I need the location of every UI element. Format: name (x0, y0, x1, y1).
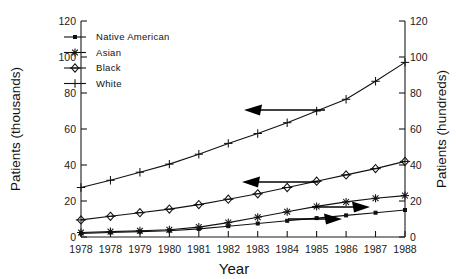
data-point (311, 177, 321, 185)
white-axis-arrow (244, 105, 325, 116)
data-point (372, 194, 380, 202)
y-axis-left-ticks: 0 20 40 60 80 100 120 (58, 15, 87, 243)
legend-label: Native American (96, 31, 170, 42)
data-point (136, 168, 144, 176)
y-axis-left-title: Patients (thousands) (8, 67, 23, 191)
data-point (371, 77, 379, 85)
data-point (165, 226, 173, 234)
x-tick-label-10: 1987 (364, 243, 388, 255)
legend-label: White (96, 78, 122, 89)
data-point (106, 176, 114, 184)
chart-figure: 0 20 40 60 80 100 120 0 20 40 60 80 100 … (0, 0, 456, 279)
data-point (224, 139, 232, 147)
data-point (254, 213, 262, 221)
x-tick-label-0: 1978 (69, 243, 93, 255)
y2-tick-label-20: 20 (410, 195, 422, 207)
data-point (374, 211, 377, 214)
x-tick-label-3: 1980 (158, 243, 182, 255)
y-tick-label-60: 60 (64, 123, 76, 135)
y2-tick-label-60: 60 (410, 123, 422, 135)
y-tick-label-20: 20 (64, 195, 76, 207)
data-point (253, 190, 263, 198)
y-tick-label-0: 0 (70, 231, 76, 243)
legend-marker-diamond-icon (70, 64, 80, 72)
data-point (401, 58, 409, 66)
data-point (195, 223, 203, 231)
data-point (401, 192, 409, 200)
x-tick-label-8: 1985 (305, 243, 329, 255)
data-point (224, 219, 232, 227)
data-point (283, 119, 291, 127)
x-tick-label-4: 1981 (187, 243, 211, 255)
data-point (105, 212, 115, 220)
x-tick-label-7: 1984 (276, 243, 300, 255)
annotation-arrows (242, 105, 370, 225)
data-point (345, 214, 348, 217)
data-point (342, 198, 350, 206)
data-point (286, 219, 289, 222)
native-american-axis-arrow (288, 214, 342, 225)
data-point (342, 95, 350, 103)
y-tick-label-120: 120 (58, 15, 76, 27)
data-point (254, 129, 262, 137)
data-point (312, 107, 320, 115)
y2-tick-label-100: 100 (410, 51, 428, 63)
data-point (77, 229, 85, 237)
data-point (106, 228, 114, 236)
y-tick-label-80: 80 (64, 87, 76, 99)
x-tick-label-6: 1983 (246, 243, 270, 255)
y2-tick-label-40: 40 (410, 159, 422, 171)
legend-item-black[interactable]: Black (64, 62, 121, 73)
chart-legend: Native AmericanAsianBlackWhite (64, 31, 170, 89)
legend-marker-small-filled-square-icon (74, 36, 77, 39)
data-point (135, 209, 145, 217)
data-point (195, 150, 203, 158)
y2-tick-label-0: 0 (410, 231, 416, 243)
data-point (165, 160, 173, 168)
legend-item-native-american[interactable]: Native American (64, 31, 170, 42)
data-point (223, 195, 233, 203)
x-tick-label-2: 1979 (128, 243, 152, 255)
data-point (283, 208, 291, 216)
y2-tick-label-80: 80 (410, 87, 422, 99)
y-axis-right-title: Patients (hundreds) (434, 70, 449, 188)
y-tick-label-40: 40 (64, 159, 76, 171)
y2-tick-label-120: 120 (410, 15, 428, 27)
data-point (256, 222, 259, 225)
x-axis-title: Year (219, 260, 249, 277)
data-point (282, 183, 292, 191)
data-point (194, 201, 204, 209)
x-tick-label-11: 1988 (393, 243, 417, 255)
series-line (81, 62, 405, 187)
legend-label: Black (96, 62, 121, 73)
legend-label: Asian (96, 47, 121, 58)
legend-marker-asterisk-icon (71, 49, 79, 57)
x-tick-label-1: 1978 (99, 243, 123, 255)
data-point (164, 205, 174, 213)
line-chart: 0 20 40 60 80 100 120 0 20 40 60 80 100 … (0, 0, 456, 279)
data-point (370, 165, 380, 173)
data-point (77, 183, 85, 191)
x-axis-ticks: 1978 1978 1979 1980 1981 1982 1983 1984 … (69, 231, 417, 255)
data-point (136, 227, 144, 235)
x-tick-label-9: 1986 (334, 243, 358, 255)
data-point (404, 209, 407, 212)
black-axis-arrow (242, 177, 318, 188)
x-tick-label-5: 1982 (217, 243, 241, 255)
data-point (341, 171, 351, 179)
